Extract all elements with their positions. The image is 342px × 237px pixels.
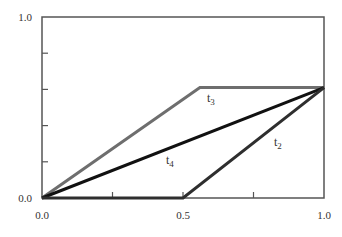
x-tick-label: 0.0 xyxy=(35,209,49,221)
y-axis-ticks xyxy=(42,53,48,162)
line-chart: 0.01.0 0.00.51.0 t3 t4 t2 xyxy=(0,0,342,237)
series-label-t4: t4 xyxy=(166,153,174,169)
x-tick-label: 0.5 xyxy=(176,209,190,221)
series-label-t2: t2 xyxy=(274,135,282,151)
y-tick-label: 1.0 xyxy=(18,11,32,23)
x-tick-label: 1.0 xyxy=(317,209,331,221)
x-axis-tick-labels: 0.00.51.0 xyxy=(35,209,331,221)
y-tick-label: 0.0 xyxy=(18,192,32,204)
series-label-t3: t3 xyxy=(207,91,215,107)
y-axis-tick-labels: 0.01.0 xyxy=(18,11,32,204)
series-labels: t3 t4 t2 xyxy=(166,91,282,169)
plot-frame xyxy=(42,17,324,198)
